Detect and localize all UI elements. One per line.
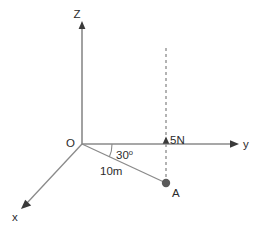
angle-degree-symbol: o <box>129 148 133 157</box>
coordinate-diagram: Z y x O 30o 10m 5N A <box>0 0 265 233</box>
point-a-dot <box>162 179 170 187</box>
figure-canvas: Z y x O 30o 10m 5N A <box>0 0 265 233</box>
z-axis-arrowhead <box>79 21 86 29</box>
x-axis-arrowhead <box>21 200 31 209</box>
angle-label: 30o <box>116 148 133 161</box>
y-axis-label: y <box>243 138 249 150</box>
origin-label: O <box>66 137 75 149</box>
force-arrowhead-icon <box>163 137 170 144</box>
x-axis-line <box>27 144 82 203</box>
point-a-label: A <box>172 187 180 199</box>
angle-value: 30 <box>116 149 129 161</box>
angle-arc <box>109 144 112 157</box>
x-axis-label: x <box>12 211 18 223</box>
force-label: 5N <box>170 134 185 146</box>
y-axis-arrowhead <box>230 140 239 147</box>
z-axis-label: Z <box>73 8 80 20</box>
length-label: 10m <box>100 165 122 177</box>
